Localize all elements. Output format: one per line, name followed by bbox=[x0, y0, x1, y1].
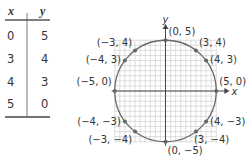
data-point bbox=[123, 119, 127, 123]
point-label: (−4, −3) bbox=[77, 116, 121, 127]
data-point bbox=[214, 89, 218, 93]
table-cell-x: 0 bbox=[7, 29, 14, 43]
table-cell-y: 0 bbox=[41, 97, 48, 111]
x-axis-label: x bbox=[230, 86, 237, 97]
point-label: (4, −3) bbox=[210, 116, 245, 127]
data-point bbox=[204, 59, 208, 63]
data-point bbox=[164, 140, 168, 144]
data-point bbox=[133, 48, 137, 52]
data-point bbox=[204, 119, 208, 123]
point-label: (−3, −4) bbox=[88, 134, 132, 145]
data-point bbox=[164, 38, 168, 42]
point-label: (−3, 4) bbox=[97, 37, 132, 48]
x-axis-arrow-icon bbox=[224, 88, 229, 94]
data-point bbox=[123, 59, 127, 63]
table-cell-x: 3 bbox=[7, 52, 14, 66]
y-axis-label: y bbox=[162, 14, 170, 25]
table-cell-y: 5 bbox=[41, 29, 48, 43]
point-label: (−4, 3) bbox=[86, 54, 121, 65]
table-cell-y: 4 bbox=[41, 52, 48, 66]
point-label: (0, 5) bbox=[169, 26, 196, 37]
data-point bbox=[113, 89, 117, 93]
data-point bbox=[133, 130, 137, 134]
circle-graph: 05344350 xy (0, 5)(3, 4)(4, 3)(5, 0)(4, … bbox=[0, 0, 248, 167]
data-point bbox=[194, 48, 198, 52]
point-label: (3, 4) bbox=[199, 37, 226, 48]
point-label: (−5, 0) bbox=[76, 76, 111, 87]
table-cell-x: 4 bbox=[7, 75, 14, 89]
table-cell-x: 5 bbox=[7, 97, 14, 111]
point-label: (5, 0) bbox=[219, 76, 246, 87]
point-label: (0, −5) bbox=[168, 145, 203, 156]
point-label: (4, 3) bbox=[210, 54, 237, 65]
point-label: (3, −4) bbox=[194, 134, 229, 145]
table-cell-y: 3 bbox=[41, 75, 48, 89]
table-rows: 05344350 bbox=[7, 29, 48, 111]
